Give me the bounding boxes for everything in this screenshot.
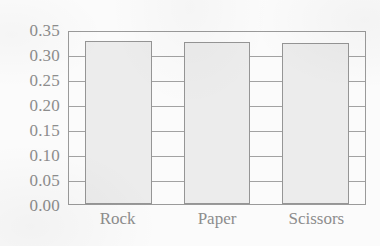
bar-paper	[184, 42, 251, 204]
x-tick-label-paper: Paper	[167, 208, 266, 230]
y-tick-label-7: 0.00	[0, 197, 60, 214]
plot-area	[68, 31, 366, 205]
bar-rock	[85, 41, 152, 204]
y-tick-label-6: 0.05	[0, 172, 60, 189]
x-tick-label-scissors: Scissors	[267, 208, 366, 230]
x-tick-label-rock: Rock	[68, 208, 167, 230]
x-axis-tick-labels: Rock Paper Scissors	[68, 208, 366, 238]
y-tick-label-0: 0.35	[0, 22, 60, 39]
y-tick-label-5: 0.10	[0, 147, 60, 164]
bar-chart-figure: 0.35 0.30 0.25 0.20 0.15 0.10 0.05 0.00 …	[0, 0, 380, 246]
y-tick-label-3: 0.20	[0, 97, 60, 114]
y-axis-tick-labels: 0.35 0.30 0.25 0.20 0.15 0.10 0.05 0.00	[0, 22, 60, 206]
bar-scissors	[282, 43, 349, 204]
bars-layer	[69, 32, 365, 204]
y-tick-label-2: 0.25	[0, 72, 60, 89]
y-tick-label-1: 0.30	[0, 47, 60, 64]
y-tick-label-4: 0.15	[0, 122, 60, 139]
